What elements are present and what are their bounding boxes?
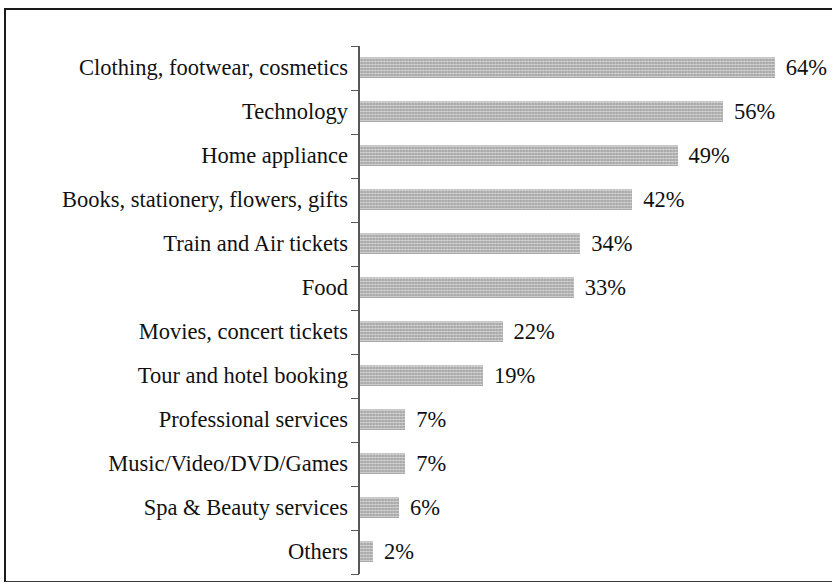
axis-tick xyxy=(351,574,359,575)
bar-wrapper: 56% xyxy=(360,90,830,134)
bar-wrapper: 6% xyxy=(360,486,830,530)
category-label: Professional services xyxy=(10,398,348,442)
bar-row: Spa & Beauty services6% xyxy=(0,486,836,530)
bar-wrapper: 7% xyxy=(360,442,830,486)
bar-row: Books, stationery, flowers, gifts42% xyxy=(0,178,836,222)
bar-wrapper: 7% xyxy=(360,398,830,442)
bar-wrapper: 34% xyxy=(360,222,830,266)
bar[interactable] xyxy=(360,365,483,386)
bar-wrapper: 42% xyxy=(360,178,830,222)
bar-row: Home appliance49% xyxy=(0,134,836,178)
bar[interactable] xyxy=(360,57,775,78)
bar-value-label: 64% xyxy=(786,46,827,90)
bar[interactable] xyxy=(360,277,574,298)
bar-value-label: 7% xyxy=(416,398,446,442)
bar-wrapper: 33% xyxy=(360,266,830,310)
bar-wrapper: 64% xyxy=(360,46,830,90)
bar[interactable] xyxy=(360,101,723,122)
bar-value-label: 2% xyxy=(384,530,414,574)
bar-value-label: 42% xyxy=(643,178,684,222)
bar-value-label: 6% xyxy=(410,486,440,530)
bar-wrapper: 22% xyxy=(360,310,830,354)
bar[interactable] xyxy=(360,409,405,430)
bar-row: Movies, concert tickets22% xyxy=(0,310,836,354)
bar-wrapper: 19% xyxy=(360,354,830,398)
bar-row: Professional services7% xyxy=(0,398,836,442)
category-label: Music/Video/DVD/Games xyxy=(10,442,348,486)
category-label: Tour and hotel booking xyxy=(10,354,348,398)
category-label: Food xyxy=(10,266,348,310)
bar-row: Tour and hotel booking19% xyxy=(0,354,836,398)
bar-value-label: 19% xyxy=(494,354,535,398)
bar[interactable] xyxy=(360,321,503,342)
category-label: Movies, concert tickets xyxy=(10,310,348,354)
category-label: Clothing, footwear, cosmetics xyxy=(10,46,348,90)
bar-value-label: 7% xyxy=(416,442,446,486)
category-label: Technology xyxy=(10,90,348,134)
bar[interactable] xyxy=(360,453,405,474)
bar-row: Technology56% xyxy=(0,90,836,134)
category-label: Books, stationery, flowers, gifts xyxy=(10,178,348,222)
bar[interactable] xyxy=(360,189,632,210)
bar-row: Clothing, footwear, cosmetics64% xyxy=(0,46,836,90)
bar-value-label: 56% xyxy=(734,90,775,134)
bar[interactable] xyxy=(360,497,399,518)
figure-container: Clothing, footwear, cosmetics64%Technolo… xyxy=(0,0,836,587)
bar-row: Others2% xyxy=(0,530,836,574)
bar-value-label: 34% xyxy=(591,222,632,266)
category-label: Train and Air tickets xyxy=(10,222,348,266)
category-label: Home appliance xyxy=(10,134,348,178)
bar-row: Music/Video/DVD/Games7% xyxy=(0,442,836,486)
category-label: Others xyxy=(10,530,348,574)
bar[interactable] xyxy=(360,145,678,166)
bar-row: Food33% xyxy=(0,266,836,310)
category-label: Spa & Beauty services xyxy=(10,486,348,530)
bar-wrapper: 2% xyxy=(360,530,830,574)
bar-value-label: 33% xyxy=(585,266,626,310)
bar[interactable] xyxy=(360,541,373,562)
bar-value-label: 22% xyxy=(514,310,555,354)
bar[interactable] xyxy=(360,233,580,254)
bar-value-label: 49% xyxy=(689,134,730,178)
bar-row: Train and Air tickets34% xyxy=(0,222,836,266)
plot-area: Clothing, footwear, cosmetics64%Technolo… xyxy=(0,0,836,587)
bar-wrapper: 49% xyxy=(360,134,830,178)
